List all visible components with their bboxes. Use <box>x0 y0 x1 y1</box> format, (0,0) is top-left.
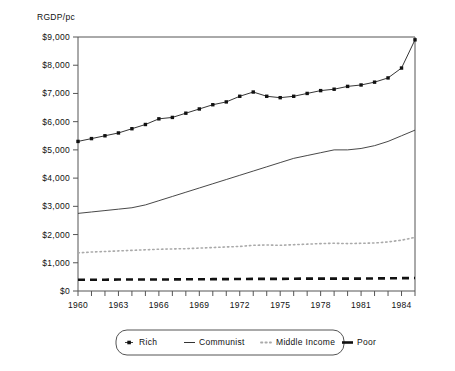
data-point-marker <box>265 95 268 98</box>
data-point-marker <box>252 90 255 93</box>
data-series-layer <box>76 38 416 280</box>
legend-item-poor[interactable]: Poor <box>342 337 376 347</box>
x-axis-tick-label: 1966 <box>149 300 169 310</box>
y-axis-title: RGDP/pc <box>37 12 75 22</box>
chart-container: RGDP/pc $0$1,000$2,000$3,000$4,000$5,000… <box>0 0 455 371</box>
data-point-marker <box>90 137 93 140</box>
data-point-marker <box>292 95 295 98</box>
series-rich <box>76 38 416 143</box>
x-axis-tick-label: 1972 <box>230 300 250 310</box>
legend-item-middle-income[interactable]: Middle Income <box>261 337 335 347</box>
data-point-marker <box>184 112 187 115</box>
x-axis-tick-label: 1960 <box>68 300 88 310</box>
y-axis-tick-label: $9,000 <box>42 32 70 42</box>
legend-item-communist[interactable]: Communist <box>184 337 245 347</box>
x-axis-tick-label: 1969 <box>189 300 209 310</box>
data-point-marker <box>346 85 349 88</box>
legend-item-label: Middle Income <box>276 337 335 347</box>
data-point-marker <box>225 100 228 103</box>
data-point-marker <box>238 95 241 98</box>
data-point-marker <box>413 38 416 41</box>
x-axis-tick-marks <box>78 291 415 296</box>
data-point-marker <box>171 116 174 119</box>
legend-swatch-marker <box>127 341 131 345</box>
series-communist <box>78 130 415 213</box>
data-point-marker <box>117 131 120 134</box>
legend-items: RichCommunistMiddle IncomePoor <box>125 337 376 347</box>
plot-frame <box>78 37 415 291</box>
data-point-marker <box>319 89 322 92</box>
series-line <box>78 130 415 213</box>
data-point-marker <box>157 117 160 120</box>
data-point-marker <box>332 88 335 91</box>
data-point-marker <box>279 96 282 99</box>
y-axis-tick-label: $8,000 <box>42 60 70 70</box>
x-axis-tick-label: 1975 <box>270 300 290 310</box>
legend-item-label: Rich <box>139 337 157 347</box>
series-line <box>78 278 415 280</box>
x-axis-tick-label: 1981 <box>351 300 371 310</box>
series-poor <box>78 278 415 280</box>
y-axis-tick-label: $4,000 <box>42 173 70 183</box>
x-axis-tick-label: 1984 <box>391 300 411 310</box>
y-axis-tick-label: $7,000 <box>42 88 70 98</box>
data-point-marker <box>198 107 201 110</box>
series-middle-income <box>78 237 415 253</box>
data-point-marker <box>144 123 147 126</box>
data-point-marker <box>76 140 79 143</box>
data-point-marker <box>386 76 389 79</box>
chart-legend: RichCommunistMiddle IncomePoor <box>116 330 376 355</box>
data-point-marker <box>305 92 308 95</box>
data-point-marker <box>400 66 403 69</box>
x-axis-tick-label: 1963 <box>108 300 128 310</box>
series-line <box>78 237 415 253</box>
data-point-marker <box>373 80 376 83</box>
data-point-marker <box>130 127 133 130</box>
x-axis-tick-labels: 196019631966196919721975197819811984 <box>68 300 412 310</box>
y-axis-tick-label: $3,000 <box>42 201 70 211</box>
legend-item-label: Communist <box>199 337 245 347</box>
y-axis-tick-label: $0 <box>60 286 70 296</box>
y-axis-tick-label: $6,000 <box>42 117 70 127</box>
rgdp-per-capita-line-chart: RGDP/pc $0$1,000$2,000$3,000$4,000$5,000… <box>0 0 455 371</box>
data-point-marker <box>211 103 214 106</box>
y-axis-tick-label: $1,000 <box>42 258 70 268</box>
data-point-marker <box>359 83 362 86</box>
x-axis-tick-label: 1978 <box>311 300 331 310</box>
series-line <box>78 40 415 142</box>
y-axis-tick-labels: $0$1,000$2,000$3,000$4,000$5,000$6,000$7… <box>42 32 70 296</box>
y-axis-tick-label: $5,000 <box>42 145 70 155</box>
legend-item-rich[interactable]: Rich <box>125 337 157 347</box>
data-point-marker <box>103 134 106 137</box>
y-axis-tick-label: $2,000 <box>42 230 70 240</box>
legend-item-label: Poor <box>357 337 376 347</box>
